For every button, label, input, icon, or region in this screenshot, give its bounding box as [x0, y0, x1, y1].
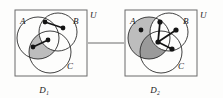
- set-diagram-pair-svg: A B C U D₁ A B C: [0, 0, 223, 98]
- caption-D2: D₂: [149, 85, 160, 95]
- set-label-B-D2: B: [183, 16, 189, 26]
- vertex-v2-D1: [61, 26, 66, 31]
- panel-D1: A B C U D₁: [0, 0, 223, 98]
- set-label-C-D1: C: [67, 61, 74, 71]
- vertex-w5-D2: [169, 46, 174, 51]
- set-label-A-D1: A: [19, 16, 26, 26]
- vertex-w3-D2: [173, 27, 178, 32]
- vertex-w4-D2: [155, 39, 160, 44]
- vertex-v1-D1: [43, 20, 48, 25]
- set-label-C-D2: C: [178, 61, 185, 71]
- universe-label-D2: U: [200, 10, 207, 20]
- caption-D1: D₁: [38, 85, 49, 95]
- set-label-B-D1: B: [73, 16, 79, 26]
- edge-v1-v2-D1: [45, 22, 63, 28]
- vertex-v3-D1: [46, 38, 51, 43]
- universe-label-D1: U: [90, 10, 97, 20]
- set-label-A-D2: A: [129, 16, 136, 26]
- figure-root: A B C U D₁ A B C: [0, 0, 223, 98]
- vertex-w2-D2: [157, 19, 162, 24]
- vertex-w1-D2: [139, 28, 144, 33]
- vertex-v4-D1: [31, 45, 36, 50]
